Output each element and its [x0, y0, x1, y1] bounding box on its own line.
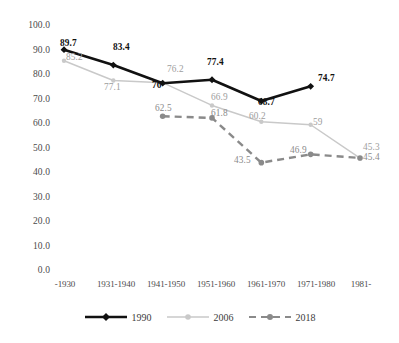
data-label-2018: 43.5	[234, 155, 251, 165]
data-label-1990: 68.7	[258, 97, 275, 107]
data-label-1990: 89.7	[60, 38, 77, 48]
data-label-2006: 76.2	[167, 64, 184, 74]
legend-swatch-1990-icon	[84, 311, 128, 323]
legend-item-1990[interactable]: 1990	[84, 311, 152, 323]
data-label-2018: 61.8	[211, 108, 228, 118]
data-label-2006: 66.9	[211, 92, 228, 102]
data-label-2006: 85.2	[66, 52, 83, 62]
data-label-2018: 62.5	[155, 103, 172, 113]
data-label-2006: 45.3	[363, 142, 380, 152]
data-label-2018: 45.4	[363, 152, 380, 162]
data-label-1990: 77.4	[207, 57, 224, 67]
legend-item-2006[interactable]: 2006	[166, 311, 234, 323]
legend-label-2006: 2006	[214, 312, 234, 323]
plot-area	[0, 0, 399, 343]
data-label-1990: 83.4	[113, 42, 130, 52]
legend-item-2018[interactable]: 2018	[248, 311, 316, 323]
data-label-2006: 59	[313, 117, 323, 127]
data-label-1990: 74.7	[318, 73, 335, 83]
chart-container: 100.0 90.0 80.0 70.0 60.0 50.0 40.0 30.0…	[0, 0, 399, 343]
legend-swatch-2018-icon	[248, 311, 292, 323]
legend-label-2018: 2018	[296, 312, 316, 323]
data-label-2006: 60.2	[249, 111, 266, 121]
data-label-2006: 77.1	[104, 82, 121, 92]
data-label-1990: 76	[152, 80, 162, 90]
chart-legend: 1990 2006 2018	[0, 305, 399, 329]
legend-label-1990: 1990	[132, 312, 152, 323]
data-label-2018: 46.9	[290, 145, 307, 155]
legend-swatch-2006-icon	[166, 311, 210, 323]
